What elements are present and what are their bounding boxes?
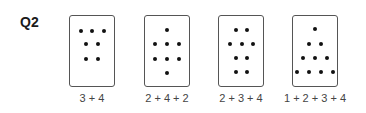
dot-icon [153,57,157,61]
dot-card [69,15,115,87]
dot-icon [84,57,88,61]
dot-icon [301,56,305,60]
dot-icon [307,70,311,74]
dot-icon [153,42,157,46]
dot-card [218,15,264,87]
dot-card [144,15,190,87]
question-label: Q2 [20,14,39,30]
dot-icon [228,42,232,46]
dot-icon [177,57,181,61]
card-caption: 2 + 4 + 2 [127,92,207,104]
dot-icon [331,70,335,74]
dot-icon [319,42,323,46]
dot-icon [96,42,100,46]
dot-icon [245,70,249,74]
dot-icon [319,70,323,74]
dot-icon [240,42,244,46]
card-caption: 1 + 2 + 3 + 4 [275,92,355,104]
dot-icon [90,29,94,33]
dot-icon [165,28,169,32]
dot-icon [313,27,317,31]
dot-icon [177,42,181,46]
dot-icon [96,57,100,61]
dot-icon [79,29,83,33]
dot-icon [234,28,238,32]
dot-icon [234,70,238,74]
dot-icon [165,71,169,75]
dot-icon [313,56,317,60]
dot-icon [165,57,169,61]
card-caption: 2 + 3 + 4 [201,92,281,104]
dot-icon [325,56,329,60]
dot-icon [102,29,106,33]
dot-icon [245,56,249,60]
dot-icon [307,42,311,46]
dot-icon [165,42,169,46]
dot-card [292,15,338,87]
card-caption: 3 + 4 [52,92,132,104]
dot-icon [84,42,88,46]
dot-icon [295,70,299,74]
dot-icon [245,28,249,32]
dot-icon [251,42,255,46]
dot-icon [234,56,238,60]
